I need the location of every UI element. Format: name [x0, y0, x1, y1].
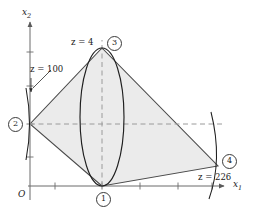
vertex-3: 3 [107, 36, 122, 51]
vertex-2: 2 [8, 117, 23, 132]
contour-z-226-label: z = 226 [198, 172, 231, 182]
origin-label: O [18, 190, 25, 199]
contour-z-100-label: z = 100 [30, 64, 63, 74]
contour-z-4-label: z = 4 [71, 37, 93, 47]
vertex-1: 1 [96, 192, 111, 207]
figure-canvas [0, 0, 253, 216]
axis-label-x2: x2 [22, 8, 31, 19]
vertex-4: 4 [222, 154, 237, 169]
axis-label-x1: x1 [233, 180, 242, 191]
axis-y [27, 22, 34, 200]
level-curve-figure: x1 x2 O z = 4 z = 100 z = 226 1 2 3 4 [0, 0, 253, 216]
axis-x [28, 183, 224, 190]
